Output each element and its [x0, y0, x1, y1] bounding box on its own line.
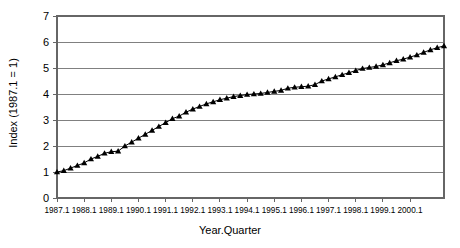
y-tick-label: 4: [43, 88, 49, 100]
data-point-marker: [81, 160, 87, 165]
x-tick-label: 2000.1: [398, 206, 423, 215]
x-tick-label: 1993.1: [207, 206, 232, 215]
data-series-line: [57, 46, 444, 172]
data-point-marker: [135, 135, 141, 140]
plot-frame: [57, 16, 444, 198]
x-tick-label: 1997.1: [316, 206, 341, 215]
data-point-marker: [129, 139, 135, 144]
x-tick-label: 1996.1: [289, 206, 314, 215]
chart-plot-area: 765432101987.11988.11989.11990.11991.119…: [0, 0, 460, 248]
x-tick-label: 1994.1: [235, 206, 260, 215]
y-axis-title-text: Index (1987.1 = 1): [7, 58, 19, 148]
data-point-marker: [312, 82, 318, 87]
x-axis-title: Year.Quarter: [0, 224, 460, 236]
x-tick-label: 1990.1: [126, 206, 151, 215]
data-point-marker: [149, 127, 155, 132]
x-tick-label: 1987.1: [44, 206, 69, 215]
x-tick-label: 1988.1: [72, 206, 97, 215]
y-tick-label: 1: [43, 166, 49, 178]
x-tick-label: 1995.1: [262, 206, 287, 215]
x-tick-label: 1999.1: [370, 206, 395, 215]
y-tick-label: 6: [43, 36, 49, 48]
y-tick-label: 0: [43, 192, 49, 204]
data-point-marker: [176, 113, 182, 118]
data-point-marker: [441, 43, 447, 48]
chart-figure: 765432101987.11988.11989.11990.11991.119…: [0, 0, 460, 248]
y-tick-label: 2: [43, 140, 49, 152]
data-point-marker: [183, 109, 189, 114]
y-tick-label: 3: [43, 114, 49, 126]
x-tick-label: 1992.1: [180, 206, 205, 215]
y-tick-label: 7: [43, 10, 49, 22]
y-axis-title: Index (1987.1 = 1): [2, 0, 24, 205]
data-point-marker: [95, 153, 101, 158]
y-tick-label: 5: [43, 62, 49, 74]
data-point-marker: [142, 131, 148, 136]
x-tick-label: 1989.1: [99, 206, 124, 215]
x-tick-label: 1998.1: [343, 206, 368, 215]
data-point-marker: [156, 123, 162, 128]
x-tick-label: 1991.1: [153, 206, 178, 215]
